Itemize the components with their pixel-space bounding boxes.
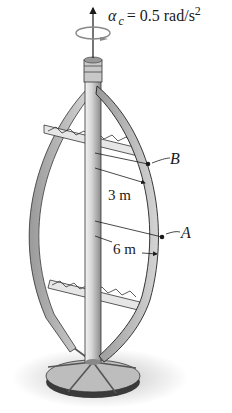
distance-b-label: 3 m	[108, 187, 131, 203]
blade-right	[96, 86, 158, 362]
hub-cap	[84, 57, 102, 82]
shaft-foot	[85, 359, 101, 365]
distance-a-label: 6 m	[113, 241, 136, 257]
point-a-marker	[160, 235, 165, 240]
central-shaft	[85, 80, 101, 362]
point-a-leader	[166, 232, 180, 234]
alpha-label: αc= 0.5 rad/s2	[108, 4, 201, 28]
point-a-label: A	[180, 224, 191, 241]
turbine-diagram: αc= 0.5 rad/s2 B 3 m A 6 m	[0, 0, 232, 413]
point-b-leader	[152, 158, 170, 163]
point-b-label: B	[170, 150, 180, 167]
point-b-marker	[146, 162, 151, 167]
